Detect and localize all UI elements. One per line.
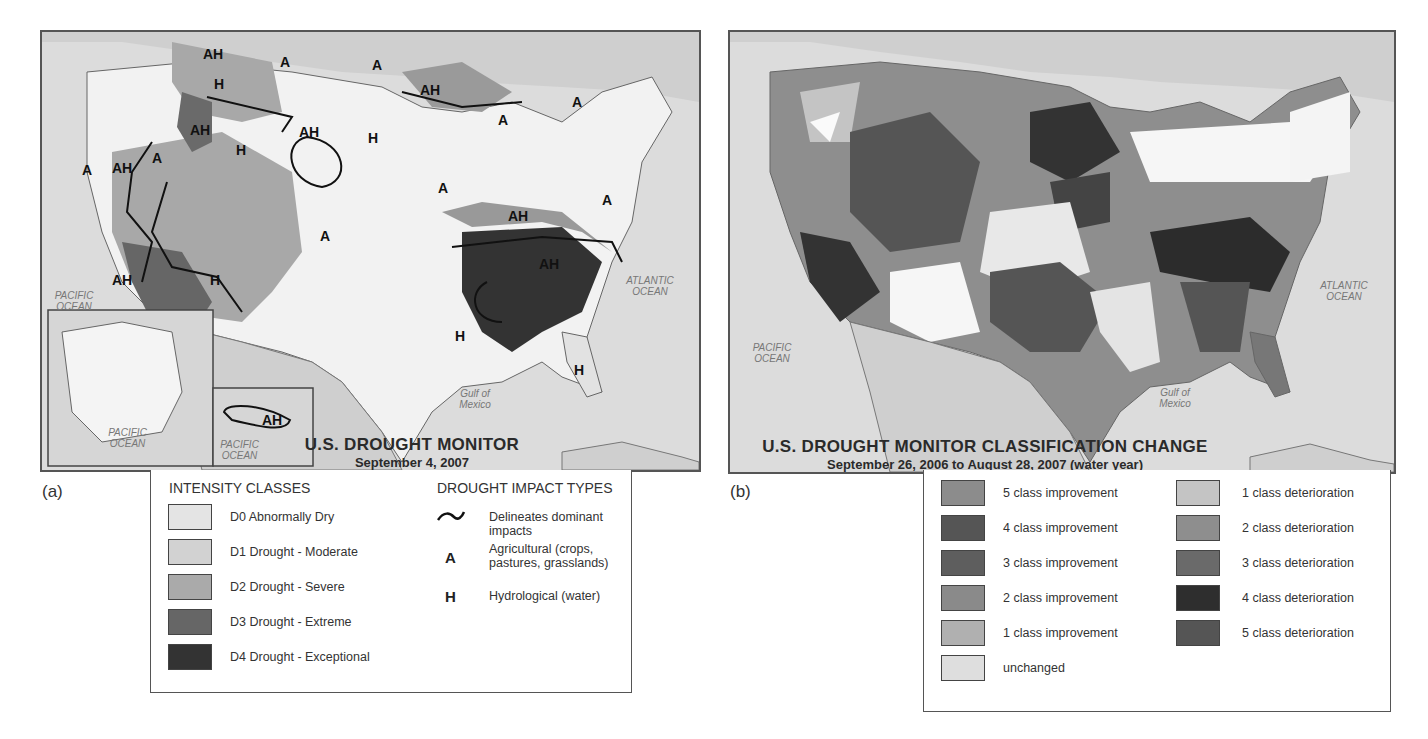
impact-marker: H [455, 328, 465, 344]
hydrological-symbol: H [445, 588, 456, 605]
classification-change-map: PACIFIC OCEAN ATLANTIC OCEAN Gulf of Mex… [728, 30, 1396, 474]
swatch [1176, 550, 1220, 576]
legend-item-d0: D0 Abnormally Dry [168, 504, 334, 530]
impact-label-boundary: Delineates dominant impacts [489, 510, 631, 538]
atlantic-ocean-label: ATLANTIC OCEAN [1314, 280, 1374, 302]
legend-label: 5 class improvement [1003, 486, 1118, 500]
impact-marker: AH [508, 208, 528, 224]
swatch-d2 [168, 574, 212, 600]
impact-marker: H [214, 76, 224, 92]
hawaii-pacific-ocean-label: PACIFIC OCEAN [212, 439, 267, 461]
legend-item-deteriorate-5: 5 class deterioration [1176, 620, 1354, 646]
change-legend: 5 class improvement 4 class improvement … [923, 470, 1391, 712]
legend-item-unchanged: unchanged [941, 655, 1065, 681]
swatch [941, 585, 985, 611]
panel-label-a: (a) [42, 482, 63, 502]
legend-label: 4 class deterioration [1242, 591, 1354, 605]
legend-label: 3 class deterioration [1242, 556, 1354, 570]
agricultural-symbol: A [445, 549, 456, 566]
impact-marker: AH [539, 256, 559, 272]
legend-label: 2 class improvement [1003, 591, 1118, 605]
legend-label: D1 Drought - Moderate [230, 545, 358, 559]
legend-label: 4 class improvement [1003, 521, 1118, 535]
legend-item-improve-2: 2 class improvement [941, 585, 1118, 611]
impact-marker: A [152, 150, 162, 166]
impact-label-hydrological: Hydrological (water) [489, 589, 600, 603]
map-title-text: U.S. DROUGHT MONITOR CLASSIFICATION CHAN… [750, 437, 1220, 457]
impact-marker: A [498, 112, 508, 128]
legend-item-d4: D4 Drought - Exceptional [168, 644, 370, 670]
legend-label: 2 class deterioration [1242, 521, 1354, 535]
impact-marker: AH [420, 82, 440, 98]
swatch [1176, 480, 1220, 506]
impact-label-agricultural: Agricultural (crops, pastures, grassland… [489, 542, 629, 570]
swatch [941, 655, 985, 681]
legend-item-deteriorate-1: 1 class deterioration [1176, 480, 1354, 506]
impact-marker: AH [262, 412, 282, 428]
pacific-ocean-label: PACIFIC OCEAN [742, 342, 802, 364]
gulf-of-mexico-label: Gulf of Mexico [1150, 387, 1200, 409]
impact-marker: AH [112, 272, 132, 288]
pacific-ocean-label: PACIFIC OCEAN [44, 290, 104, 312]
legend-label: 1 class improvement [1003, 626, 1118, 640]
impact-types-header: DROUGHT IMPACT TYPES [437, 480, 613, 496]
impact-marker: AH [112, 160, 132, 176]
legend-label: 1 class deterioration [1242, 486, 1354, 500]
impact-marker: A [602, 192, 612, 208]
impact-marker: A [280, 54, 290, 70]
drought-monitor-map: AH A H AH A AH H A AH H A AH A AH A A AH… [40, 30, 701, 472]
map-title: U.S. DROUGHT MONITOR CLASSIFICATION CHAN… [750, 437, 1220, 472]
legend-label: D0 Abnormally Dry [230, 510, 334, 524]
swatch-d1 [168, 539, 212, 565]
swatch [1176, 515, 1220, 541]
legend-label: 3 class improvement [1003, 556, 1118, 570]
swatch [941, 620, 985, 646]
legend-item-improve-3: 3 class improvement [941, 550, 1118, 576]
impact-marker: H [210, 272, 220, 288]
impact-marker: A [320, 228, 330, 244]
legend-label: 5 class deterioration [1242, 626, 1354, 640]
atlantic-ocean-label: ATLANTIC OCEAN [620, 275, 680, 297]
boundary-line-icon [436, 509, 466, 523]
swatch [941, 515, 985, 541]
swatch [1176, 585, 1220, 611]
intensity-classes-header: INTENSITY CLASSES [169, 480, 310, 496]
legend-item-deteriorate-3: 3 class deterioration [1176, 550, 1354, 576]
swatch [941, 550, 985, 576]
swatch [941, 480, 985, 506]
drought-map-graphic [42, 32, 699, 470]
gulf-of-mexico-label: Gulf of Mexico [450, 388, 500, 410]
map-title: U.S. DROUGHT MONITOR September 4, 2007 [282, 435, 542, 470]
impact-marker: AH [299, 124, 319, 140]
legend-item-improve-5: 5 class improvement [941, 480, 1118, 506]
legend-label: D2 Drought - Severe [230, 580, 345, 594]
legend-item-deteriorate-2: 2 class deterioration [1176, 515, 1354, 541]
legend-item-improve-4: 4 class improvement [941, 515, 1118, 541]
legend-item-deteriorate-4: 4 class deterioration [1176, 585, 1354, 611]
map-date: September 4, 2007 [282, 455, 542, 470]
impact-marker: A [372, 57, 382, 73]
impact-marker: A [572, 94, 582, 110]
impact-marker: AH [203, 46, 223, 62]
legend-item-improve-1: 1 class improvement [941, 620, 1118, 646]
impact-marker: H [236, 142, 246, 158]
legend-label: unchanged [1003, 661, 1065, 675]
legend-item-d1: D1 Drought - Moderate [168, 539, 358, 565]
change-map-graphic [730, 32, 1394, 472]
impact-marker: A [82, 162, 92, 178]
impact-marker: A [438, 180, 448, 196]
swatch-d3 [168, 609, 212, 635]
legend-label: D4 Drought - Exceptional [230, 650, 370, 664]
swatch-d0 [168, 504, 212, 530]
swatch-d4 [168, 644, 212, 670]
impact-marker: AH [190, 122, 210, 138]
map-title-text: U.S. DROUGHT MONITOR [282, 435, 542, 455]
legend-label: D3 Drought - Extreme [230, 615, 352, 629]
impact-marker: H [368, 130, 378, 146]
legend-item-d2: D2 Drought - Severe [168, 574, 345, 600]
panel-label-b: (b) [730, 482, 751, 502]
impact-marker: H [574, 362, 584, 378]
intensity-legend: INTENSITY CLASSES D0 Abnormally Dry D1 D… [150, 470, 632, 693]
alaska-pacific-ocean-label: PACIFIC OCEAN [100, 427, 155, 449]
swatch [1176, 620, 1220, 646]
